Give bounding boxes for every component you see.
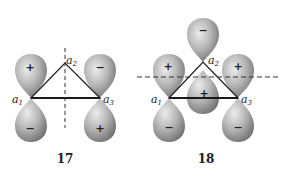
atom-label-a1: a1 [12,93,23,107]
diagram-18: − + + − + − a1 a2 a3 18 [137,18,278,166]
sign-a1-down: − [164,121,173,134]
atom-label-a2: a2 [66,54,78,68]
orbital-diagram: + − − + a1 a2 a3 17 − + + − + − a1 a2 a3… [0,0,282,177]
atom-label-a3: a3 [103,93,115,107]
figure-number-18: 18 [198,152,215,166]
atom-label-a1: a1 [151,93,162,107]
atom-label-a2: a2 [208,54,220,68]
figure-number-17: 17 [57,152,74,166]
sign-a3-up: + [233,60,242,73]
sign-a1-up: + [163,60,172,73]
sign-a3-up: − [95,61,104,74]
diagram-17: + − − + a1 a2 a3 17 [12,48,116,166]
sign-a1-down: − [25,122,34,135]
sign-a3-down: − [233,121,242,134]
sign-a3-down: + [95,122,104,135]
sign-a2-up: − [198,24,207,37]
atom-label-a3: a3 [241,93,253,107]
sign-a1-up: + [25,61,34,74]
